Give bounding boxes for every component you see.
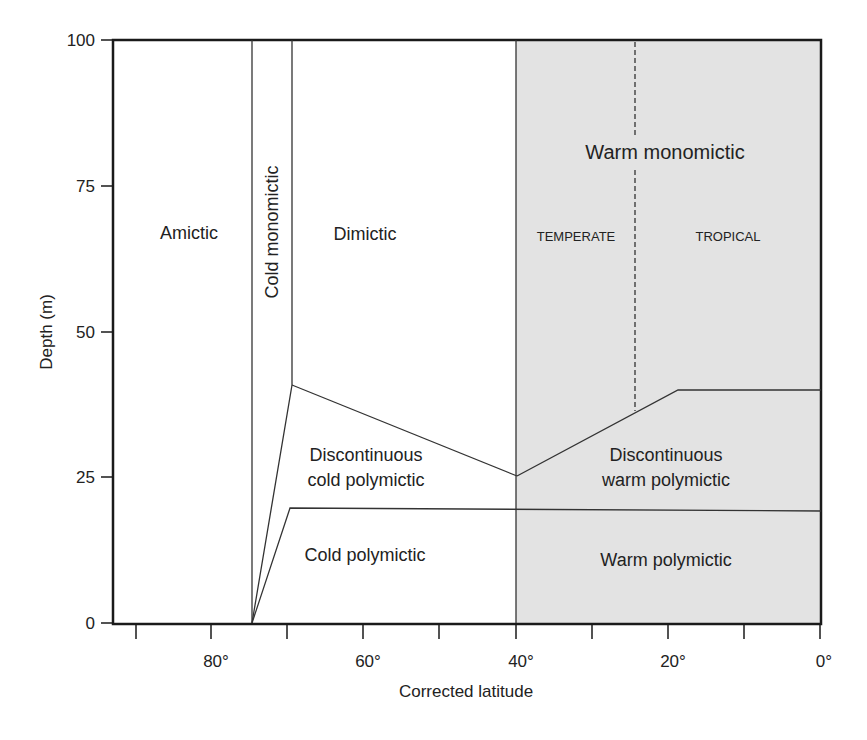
- y-tick-label: 75: [76, 177, 95, 196]
- region-label-disc-warm-line1: Discontinuous: [609, 445, 722, 465]
- y-tick-label: 50: [76, 323, 95, 342]
- region-label-cold-polymictic: Cold polymictic: [304, 545, 425, 565]
- region-label-tropical: TROPICAL: [695, 229, 760, 244]
- region-label-temperate: TEMPERATE: [537, 229, 616, 244]
- x-tick-label: 60°: [355, 652, 381, 671]
- x-tick-label: 0°: [816, 652, 832, 671]
- x-tick-labels: 80° 60° 40° 20° 0°: [203, 652, 832, 671]
- region-label-amictic: Amictic: [160, 223, 218, 243]
- y-tick-label: 100: [67, 31, 95, 50]
- x-tick-label: 40°: [508, 652, 534, 671]
- lake-mixing-diagram: 100 75 50 25 0 80° 60° 40° 20° 0° Correc…: [0, 0, 867, 740]
- y-tick-label: 25: [76, 468, 95, 487]
- y-axis-title: Depth (m): [37, 294, 56, 370]
- region-label-cold-monomictic: Cold monomictic: [262, 165, 282, 298]
- region-label-disc-cold-line1: Discontinuous: [309, 445, 422, 465]
- x-tick-label: 80°: [203, 652, 229, 671]
- region-label-warm-monomictic: Warm monomictic: [585, 141, 744, 163]
- region-label-disc-warm-line2: warm polymictic: [601, 470, 730, 490]
- x-axis-title: Corrected latitude: [399, 682, 533, 701]
- region-label-dimictic: Dimictic: [334, 224, 397, 244]
- y-tick-labels: 100 75 50 25 0: [67, 31, 95, 633]
- x-tick-label: 20°: [660, 652, 686, 671]
- boundary-cold-monomictic-dimictic: [252, 40, 292, 623]
- x-axis-ticks: [136, 624, 820, 639]
- y-axis-ticks: [101, 40, 113, 623]
- y-tick-label: 0: [86, 614, 95, 633]
- region-label-warm-polymictic: Warm polymictic: [600, 550, 731, 570]
- region-label-disc-cold-line2: cold polymictic: [307, 470, 424, 490]
- warm-region-shading: [516, 40, 821, 624]
